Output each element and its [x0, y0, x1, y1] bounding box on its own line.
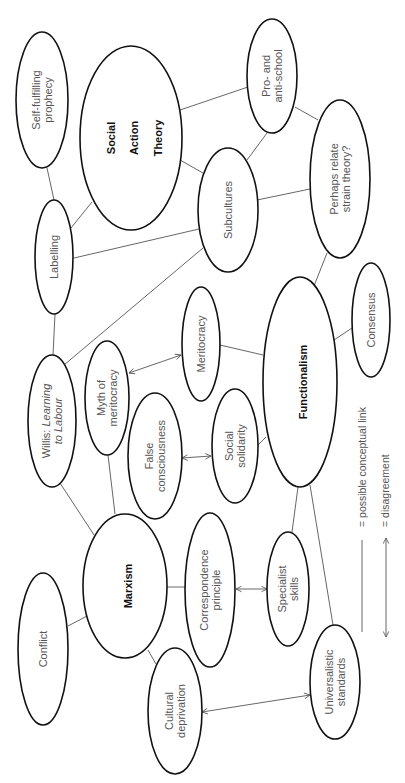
link-functionalism-universalistic-standards	[310, 485, 333, 625]
node-label-line: Social	[105, 122, 117, 154]
node-consensus: Consensus	[352, 263, 390, 377]
node-label-line: prophecy	[42, 77, 54, 123]
link-consensus-functionalism	[334, 328, 352, 340]
node-label-line: to Labour	[52, 396, 64, 444]
node-label-line: Social	[223, 431, 235, 461]
node-label: Conflict	[37, 631, 49, 668]
node-label-line: Myth of	[95, 379, 107, 416]
node-label-line: False	[143, 443, 155, 470]
node-label: Labelling	[48, 235, 60, 279]
link-pro-anti-school-strain-theory	[295, 107, 318, 120]
node-label-line: Universalistic	[323, 649, 335, 714]
link-social-action-theory-labelling	[71, 202, 92, 228]
node-label: Consensus	[365, 292, 377, 348]
node-label: Subcultures	[222, 180, 234, 239]
node-label: Self-fulfillingprophecy	[30, 70, 54, 129]
link-subcultures-strain-theory	[257, 189, 310, 200]
node-subcultures: Subcultures	[198, 148, 258, 272]
node-label: Universalisticstandards	[323, 649, 348, 714]
link-functionalism-specialist-skills	[292, 487, 298, 532]
node-label-line: Cultural	[163, 692, 175, 730]
node-label: Pro- andanti-school	[260, 49, 285, 102]
node-social-solidarity: Socialsolidarity	[212, 389, 258, 503]
link-willis-marxism	[60, 483, 94, 535]
concept-map: Self-fulfillingprophecySocialActionTheor…	[0, 0, 405, 783]
node-self-fulfilling-prophecy: Self-fulfillingprophecy	[16, 32, 68, 168]
link-pro-anti-school-subcultures	[247, 133, 267, 160]
node-marxism: Marxism	[83, 514, 167, 658]
node-label-line: Action	[128, 121, 140, 156]
node-label-line: Self-fulfilling	[30, 70, 42, 129]
node-label-line: meritocracy	[107, 369, 119, 426]
node-label-line: Specialist	[276, 565, 288, 612]
node-label-line: Subcultures	[222, 180, 234, 239]
node-label-line: Meritocracy	[195, 315, 207, 372]
node-label-line: solidarity	[235, 424, 247, 468]
node-label: Functionalism	[297, 345, 309, 420]
disagreement-arrow-myth-of-meritocracy-meritocracy	[129, 355, 181, 373]
node-labelling: Labelling	[35, 200, 73, 314]
node-social-action-theory: SocialActionTheory	[80, 46, 182, 230]
link-meritocracy-functionalism	[220, 345, 263, 355]
node-label-line: skills	[288, 577, 300, 601]
node-label-line: Perhaps relate	[328, 143, 340, 215]
node-label: SocialActionTheory	[105, 119, 164, 157]
link-self-fulfilling-prophecy-labelling	[47, 168, 54, 200]
node-functionalism: Functionalism	[263, 277, 337, 487]
legend: = possible conceptual link = disagreemen…	[356, 406, 391, 637]
link-labelling-willis	[53, 314, 55, 355]
node-cultural-deprivation: Culturaldeprivation	[148, 648, 202, 774]
link-marxism-conflict	[68, 616, 87, 626]
node-pro-anti-school: Pro- andanti-school	[247, 19, 297, 133]
node-label: Culturaldeprivation	[163, 684, 188, 738]
node-label: Perhaps relatestrain theory?	[328, 143, 353, 215]
node-label: Meritocracy	[195, 315, 207, 372]
link-social-solidarity-functionalism	[258, 437, 266, 445]
link-myth-of-meritocracy-marxism	[108, 455, 115, 514]
node-meritocracy: Meritocracy	[182, 287, 220, 401]
link-marxism-cultural-deprivation	[148, 650, 156, 664]
legend-link-label: = possible conceptual link	[356, 406, 368, 527]
node-label-line: Willis: Learning	[40, 383, 52, 458]
node-label-line: deprivation	[175, 684, 187, 738]
legend-disagreement-label: = disagreement	[379, 454, 391, 527]
node-label-line: Conflict	[37, 631, 49, 668]
node-myth-of-meritocracy: Myth ofmeritocracy	[85, 341, 129, 455]
node-willis: Willis: Learningto Labour	[28, 355, 76, 487]
node-label-line: consciousness	[155, 419, 167, 492]
concept-nodes: Self-fulfillingprophecySocialActionTheor…	[16, 19, 390, 774]
node-specialist-skills: Specialistskills	[267, 532, 309, 646]
node-label-line: standards	[335, 657, 347, 706]
link-social-action-theory-pro-anti-school	[180, 87, 248, 110]
link-labelling-subcultures	[74, 229, 199, 258]
node-false-consciousness: Falseconsciousness	[128, 393, 182, 519]
node-label-line: anti-school	[272, 49, 284, 102]
node-label: Marxism	[122, 563, 134, 608]
node-label-line: Labelling	[48, 235, 60, 279]
node-universalistic-standards: Universalisticstandards	[310, 625, 360, 739]
node-strain-theory: Perhaps relatestrain theory?	[310, 100, 370, 258]
link-strain-theory-functionalism	[314, 253, 327, 286]
link-social-action-theory-subcultures	[180, 160, 203, 173]
node-conflict: Conflict	[18, 573, 68, 725]
node-label-line: Marxism	[122, 563, 134, 608]
node-label-line: Pro- and	[260, 55, 272, 97]
node-correspondence-principle: Correspondenceprinciple	[185, 513, 235, 667]
disagreement-arrow-false-consciousness-social-solidarity	[182, 456, 211, 458]
disagreement-arrow-cultural-deprivation-universalistic-standards	[202, 695, 310, 712]
node-label-line: Functionalism	[297, 345, 309, 420]
node-label-line: Theory	[152, 119, 164, 157]
node-label-line: Consensus	[365, 292, 377, 348]
node-label-line: principle	[210, 570, 222, 611]
node-label-line: strain theory?	[340, 146, 352, 213]
node-label-line: Correspondence	[198, 549, 210, 630]
